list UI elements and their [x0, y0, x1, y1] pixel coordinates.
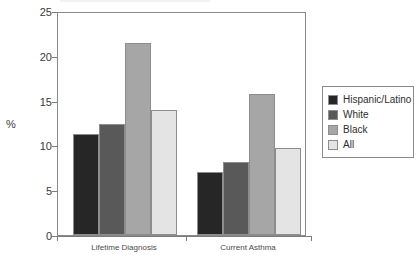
legend-item-label: Black [343, 124, 367, 135]
x-axis-line [52, 236, 311, 237]
legend-item[interactable]: Hispanic/Latino [328, 92, 409, 107]
plot-area [57, 12, 306, 236]
legend-swatch-icon [328, 125, 338, 135]
legend-swatch-icon [328, 140, 338, 150]
y-axis-tick-label: 20 [40, 51, 52, 62]
bar [223, 162, 249, 235]
y-axis-tick-mark [52, 57, 57, 58]
legend-swatch-icon [328, 95, 338, 105]
y-axis-tick-mark [52, 102, 57, 103]
legend-item-label: All [343, 139, 354, 150]
legend-item[interactable]: Black [328, 122, 409, 137]
y-axis-tick-mark [52, 12, 57, 13]
legend-item-label: Hispanic/Latino [343, 94, 411, 105]
legend-swatch-icon [328, 110, 338, 120]
y-axis-tick-label: 25 [40, 7, 52, 18]
bar [99, 124, 125, 235]
bar [249, 94, 275, 235]
x-axis-category-label: Lifetime Diagnosis [91, 243, 156, 253]
x-axis-tick-mark [186, 236, 187, 241]
bar [73, 134, 99, 235]
bar [197, 172, 223, 235]
legend-item[interactable]: White [328, 107, 409, 122]
x-axis-category-label: Current Asthma [220, 243, 276, 253]
x-axis-tick-mark [57, 236, 58, 241]
bar [125, 43, 151, 235]
chart-legend: Hispanic/LatinoWhiteBlackAll [322, 86, 414, 158]
y-axis-tick-mark [52, 191, 57, 192]
clipped-title-artifact [60, 0, 210, 2]
y-axis-tick-mark [52, 146, 57, 147]
y-axis-title: % [6, 118, 16, 130]
bar [151, 110, 177, 235]
plot-inner [58, 13, 305, 235]
legend-item[interactable]: All [328, 137, 409, 152]
legend-item-label: White [343, 109, 369, 120]
bar-chart-figure: % 0510152025 Hispanic/LatinoWhiteBlackAl… [0, 0, 417, 255]
y-axis-tick-labels: 0510152025 [24, 0, 52, 255]
y-axis-tick-label: 10 [40, 141, 52, 152]
y-axis-tick-label: 15 [40, 96, 52, 107]
bar [275, 148, 301, 235]
x-axis-tick-mark [311, 236, 312, 241]
